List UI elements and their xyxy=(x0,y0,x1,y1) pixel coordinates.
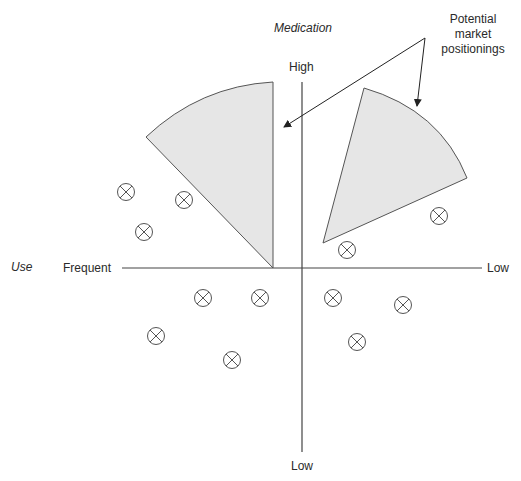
x-axis-title: Use xyxy=(11,260,32,274)
point-marker-icon xyxy=(252,290,269,307)
x-axis-low-label: Low xyxy=(487,261,509,275)
right-positioning-region xyxy=(323,88,467,243)
x-axis-frequent-label: Frequent xyxy=(63,261,111,275)
y-axis-title: Medication xyxy=(274,21,332,35)
positioning-map xyxy=(0,0,521,481)
left-positioning-region xyxy=(146,82,273,268)
data-points xyxy=(118,184,448,369)
annotation-line-1: Potential xyxy=(430,12,516,27)
point-marker-icon xyxy=(431,208,448,225)
annotation-line-3: positionings xyxy=(430,42,516,57)
annotation-line-2: market xyxy=(430,27,516,42)
annotation-arrow-right xyxy=(417,38,425,106)
point-marker-icon xyxy=(349,334,366,351)
y-axis-high-label: High xyxy=(289,60,314,74)
point-marker-icon xyxy=(224,352,241,369)
annotation-label: Potential market positionings xyxy=(430,12,516,57)
point-marker-icon xyxy=(136,224,153,241)
y-axis-low-label: Low xyxy=(291,459,313,473)
point-marker-icon xyxy=(176,192,193,209)
point-marker-icon xyxy=(148,328,165,345)
point-marker-icon xyxy=(195,290,212,307)
point-marker-icon xyxy=(339,242,356,259)
point-marker-icon xyxy=(118,184,135,201)
point-marker-icon xyxy=(325,290,342,307)
point-marker-icon xyxy=(395,297,412,314)
